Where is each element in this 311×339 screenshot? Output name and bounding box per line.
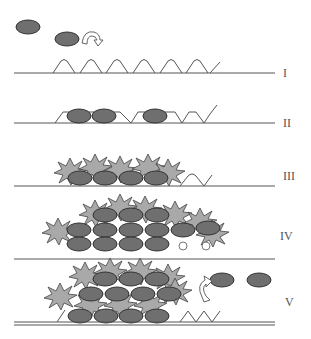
curved-arrow-icon <box>200 276 212 302</box>
detaching-particles <box>200 273 271 302</box>
released-particle <box>247 273 271 287</box>
stage-label-III: III <box>283 169 295 183</box>
deposition-stages-diagram: I II III <box>0 0 311 339</box>
stage-label-II: II <box>283 116 291 130</box>
stage-I: I <box>14 60 287 81</box>
stage-II: II <box>14 105 291 130</box>
stage-IV: IV <box>14 194 293 259</box>
adsorbed-particle <box>67 109 91 123</box>
free-particle <box>16 20 40 34</box>
stage-label-I: I <box>283 66 287 80</box>
stage-III: III <box>14 154 295 186</box>
stage-label-V: V <box>285 295 294 309</box>
stage-V: V <box>14 258 294 325</box>
adsorbed-particle <box>92 109 116 123</box>
surface-sites <box>53 60 220 74</box>
curved-arrow-icon <box>82 32 103 46</box>
free-particles <box>16 20 103 46</box>
adsorbed-particle <box>143 109 167 123</box>
stage-label-IV: IV <box>280 229 293 243</box>
released-particle <box>210 273 234 287</box>
free-particle <box>55 32 79 46</box>
